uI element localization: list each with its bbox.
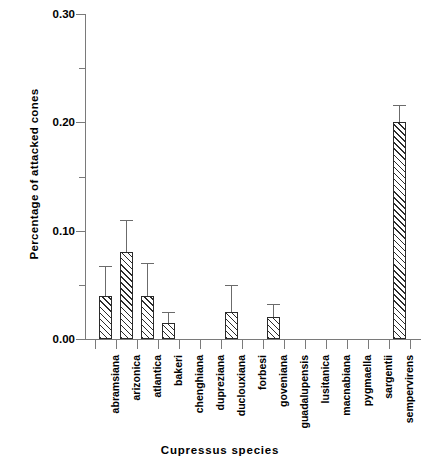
x-axis-tick-label: chenghiana (193, 355, 205, 413)
x-axis-tick-label: guadalupensis (298, 355, 310, 429)
error-bar-stem (126, 220, 127, 253)
error-bar-cap (141, 263, 154, 264)
x-axis-tick (326, 340, 327, 349)
bar (393, 122, 406, 339)
error-bar-cap (99, 266, 112, 267)
x-axis-tick (284, 340, 285, 349)
y-axis-title: Percentage of attacked cones (28, 54, 40, 294)
x-axis-tick (305, 340, 306, 349)
x-axis-tick-label: pygmaella (361, 355, 373, 406)
y-axis-tick (76, 14, 85, 15)
y-axis-tick (76, 231, 85, 232)
error-bar-cap (393, 105, 406, 106)
bar (99, 296, 112, 339)
error-bar-cap (225, 285, 238, 286)
x-axis-tick-label: sempervirens (403, 355, 415, 423)
error-bar-cap (162, 312, 175, 313)
chart-figure: Percentage of attacked cones Cupressus s… (0, 0, 440, 465)
error-bar-stem (147, 263, 148, 296)
bar (141, 296, 154, 339)
bar (267, 317, 280, 339)
x-axis-tick (263, 340, 264, 349)
x-axis-tick-label: macnabiana (340, 355, 352, 416)
y-axis-tick (76, 339, 85, 340)
y-axis-tick-label: 0.00 (53, 333, 75, 345)
x-axis-tick (137, 340, 138, 349)
y-axis-minor-tick (79, 68, 85, 69)
bar (225, 312, 238, 339)
x-axis-tick (221, 340, 222, 349)
x-axis-tick-label: sargentii (382, 355, 394, 399)
x-axis-tick-label: duclouxiana (235, 355, 247, 416)
error-bar-stem (273, 304, 274, 317)
x-axis-tick (179, 340, 180, 349)
y-axis-minor-tick (79, 177, 85, 178)
x-axis-tick-label: arizonica (130, 355, 142, 401)
x-axis-tick-label: lusitanica (319, 355, 331, 403)
x-axis-tick-label: forbesi (256, 355, 268, 390)
x-axis-tick (347, 340, 348, 349)
x-axis-tick-label: goveniana (277, 355, 289, 407)
bar (120, 252, 133, 339)
y-axis-minor-tick (79, 285, 85, 286)
error-bar-stem (105, 266, 106, 296)
y-axis-tick-label: 0.20 (53, 116, 75, 128)
x-axis-tick (200, 340, 201, 349)
x-axis-title: Cupressus species (0, 444, 440, 456)
y-axis-tick-label: 0.10 (53, 225, 75, 237)
x-axis-tick-label: bakeri (172, 355, 184, 386)
error-bar-stem (399, 105, 400, 122)
plot-area: 0.000.100.200.30 abramsianaarizonicaatla… (85, 14, 421, 340)
error-bar-cap (120, 220, 133, 221)
x-axis-tick (389, 340, 390, 349)
x-axis-tick (158, 340, 159, 349)
error-bar-stem (231, 285, 232, 312)
x-axis-tick (368, 340, 369, 349)
error-bar-cap (267, 304, 280, 305)
error-bar-stem (168, 312, 169, 323)
y-axis-tick-label: 0.30 (53, 8, 75, 20)
bar (162, 323, 175, 339)
x-axis-tick (242, 340, 243, 349)
y-axis-tick (76, 122, 85, 123)
y-axis-line (85, 14, 86, 340)
x-axis-tick (410, 340, 411, 349)
x-axis-tick-label: atlantica (151, 355, 163, 398)
x-axis-tick (95, 340, 96, 349)
x-axis-tick-label: dupreziana (214, 355, 226, 410)
x-axis-tick (116, 340, 117, 349)
x-axis-line (85, 339, 421, 340)
x-axis-tick-label: abramsiana (109, 355, 121, 413)
